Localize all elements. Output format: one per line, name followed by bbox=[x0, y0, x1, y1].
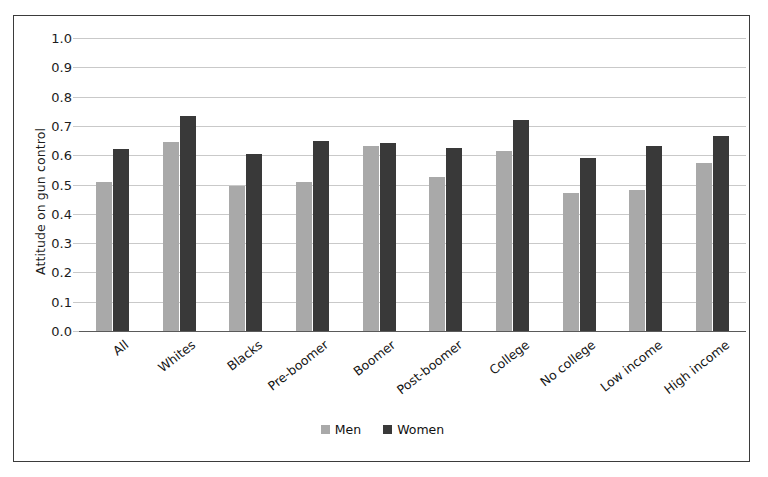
bar-group bbox=[163, 38, 196, 331]
bar-men bbox=[629, 190, 645, 331]
x-tick: No college bbox=[536, 337, 599, 391]
x-tick-label: Pre-boomer bbox=[264, 337, 332, 395]
bar-men bbox=[296, 182, 312, 331]
bar-women bbox=[580, 158, 596, 331]
bar-women bbox=[313, 141, 329, 331]
y-tick-label: 0.7 bbox=[51, 118, 72, 133]
y-tick-label: 0.5 bbox=[51, 177, 72, 192]
chart-legend: MenWomen bbox=[14, 422, 751, 437]
bar-women bbox=[646, 146, 662, 331]
bar-group bbox=[696, 38, 729, 331]
bar-group bbox=[629, 38, 662, 331]
bar-men bbox=[363, 146, 379, 331]
y-tick-label: 0.9 bbox=[51, 60, 72, 75]
bar-men bbox=[563, 193, 579, 331]
bar-men bbox=[229, 186, 245, 331]
x-tick-label: Whites bbox=[154, 337, 199, 376]
bar-chart: Attitude on gun control 1.00.90.80.70.60… bbox=[14, 16, 751, 463]
x-tick: High income bbox=[659, 337, 732, 398]
gridline bbox=[79, 331, 746, 332]
x-tick-label: College bbox=[484, 337, 532, 379]
bar-series-layer bbox=[79, 38, 746, 331]
x-tick-label: Boomer bbox=[349, 337, 398, 380]
bar-men bbox=[163, 142, 179, 331]
legend-item-women: Women bbox=[383, 422, 444, 437]
legend-label: Men bbox=[335, 422, 361, 437]
x-tick: Low income bbox=[596, 337, 665, 396]
y-tick-label: 0.8 bbox=[51, 89, 72, 104]
y-axis-title: Attitude on gun control bbox=[33, 92, 48, 312]
figure-frame: Attitude on gun control 1.00.90.80.70.60… bbox=[13, 15, 750, 462]
bar-women bbox=[446, 148, 462, 331]
bar-women bbox=[380, 143, 396, 331]
y-tick-label: 0.4 bbox=[51, 206, 72, 221]
y-tick-label: 1.0 bbox=[51, 31, 72, 46]
bar-women bbox=[713, 136, 729, 331]
x-tick: Pre-boomer bbox=[264, 337, 332, 395]
x-tick: Boomer bbox=[349, 337, 398, 380]
bar-men bbox=[96, 182, 112, 331]
x-tick: All bbox=[109, 337, 132, 360]
legend-label: Women bbox=[397, 422, 444, 437]
x-tick-label: Blacks bbox=[222, 337, 265, 375]
y-tick-label: 0.3 bbox=[51, 236, 72, 251]
plot-area: 1.00.90.80.70.60.50.40.30.20.10.0 AllWhi… bbox=[79, 38, 746, 331]
x-tick-label: No college bbox=[536, 337, 599, 391]
bar-group bbox=[363, 38, 396, 331]
bar-group bbox=[429, 38, 462, 331]
y-tick-label: 0.6 bbox=[51, 148, 72, 163]
legend-swatch-icon bbox=[383, 425, 392, 434]
x-tick-label: Low income bbox=[596, 337, 665, 396]
legend-swatch-icon bbox=[321, 425, 330, 434]
x-tick: Whites bbox=[154, 337, 199, 376]
y-tick-label: 0.0 bbox=[51, 324, 72, 339]
bar-men bbox=[696, 163, 712, 331]
legend-item-men: Men bbox=[321, 422, 361, 437]
bar-group bbox=[229, 38, 262, 331]
y-tick-mark bbox=[73, 331, 79, 332]
bar-group bbox=[496, 38, 529, 331]
x-tick: College bbox=[484, 337, 532, 379]
x-tick: Blacks bbox=[222, 337, 265, 375]
x-tick-label: Post-boomer bbox=[392, 337, 465, 399]
bar-women bbox=[180, 116, 196, 331]
y-tick-label: 0.2 bbox=[51, 265, 72, 280]
bar-women bbox=[513, 120, 529, 331]
x-tick-label: High income bbox=[659, 337, 732, 398]
x-tick: Post-boomer bbox=[392, 337, 465, 399]
bar-women bbox=[113, 149, 129, 331]
x-tick-label: All bbox=[109, 337, 132, 360]
bar-group bbox=[563, 38, 596, 331]
bar-women bbox=[246, 154, 262, 331]
bar-men bbox=[496, 151, 512, 331]
bar-group bbox=[296, 38, 329, 331]
bar-men bbox=[429, 177, 445, 331]
y-tick-label: 0.1 bbox=[51, 294, 72, 309]
bar-group bbox=[96, 38, 129, 331]
